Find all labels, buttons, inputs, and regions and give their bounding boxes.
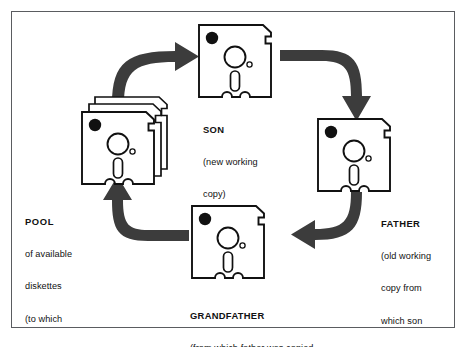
node-desc-son-line-1: (new working xyxy=(203,157,258,168)
arrow-pool-to-son xyxy=(112,42,199,104)
floppy-disk-father xyxy=(318,119,390,191)
node-title-pool: POOL xyxy=(25,216,87,227)
node-label-son: SON (new working copy) xyxy=(203,102,258,222)
arrow-son-to-father xyxy=(280,50,371,121)
floppy-disk-son xyxy=(199,25,271,97)
node-desc-father-line-1: (old working xyxy=(381,251,431,262)
arrow-grandfather-to-pool xyxy=(103,176,189,241)
write-protect-dot-icon xyxy=(325,126,337,138)
node-desc-son-line-2: copy) xyxy=(203,189,258,200)
figure-root: SON (new working copy) FATHER (old worki… xyxy=(0,0,469,347)
node-label-father: FATHER (old working copy from which son … xyxy=(381,196,431,347)
node-label-grandfather: GRANDFATHER (from which father was copie… xyxy=(190,288,314,347)
node-desc-pool-line-3: (to which xyxy=(25,314,87,325)
floppy-disk-stack-pool xyxy=(82,97,167,184)
node-desc-pool-line-2: diskettes xyxy=(25,281,87,292)
node-desc-grandfather-line-1: (from which father was copied xyxy=(190,343,314,347)
node-title-son: SON xyxy=(203,124,258,135)
arrow-father-to-grandfather xyxy=(291,192,362,249)
floppy-disk-stack-front xyxy=(82,112,154,184)
write-protect-dot-icon xyxy=(206,32,218,44)
node-title-grandfather: GRANDFATHER xyxy=(190,310,314,321)
node-title-father: FATHER xyxy=(381,218,431,229)
node-desc-father-line-3: which son xyxy=(381,316,431,327)
node-label-pool: POOL of available diskettes (to which gr… xyxy=(25,194,87,347)
write-protect-dot-icon xyxy=(89,119,101,131)
node-desc-pool-line-1: of available xyxy=(25,249,87,260)
node-desc-father-line-2: copy from xyxy=(381,283,431,294)
